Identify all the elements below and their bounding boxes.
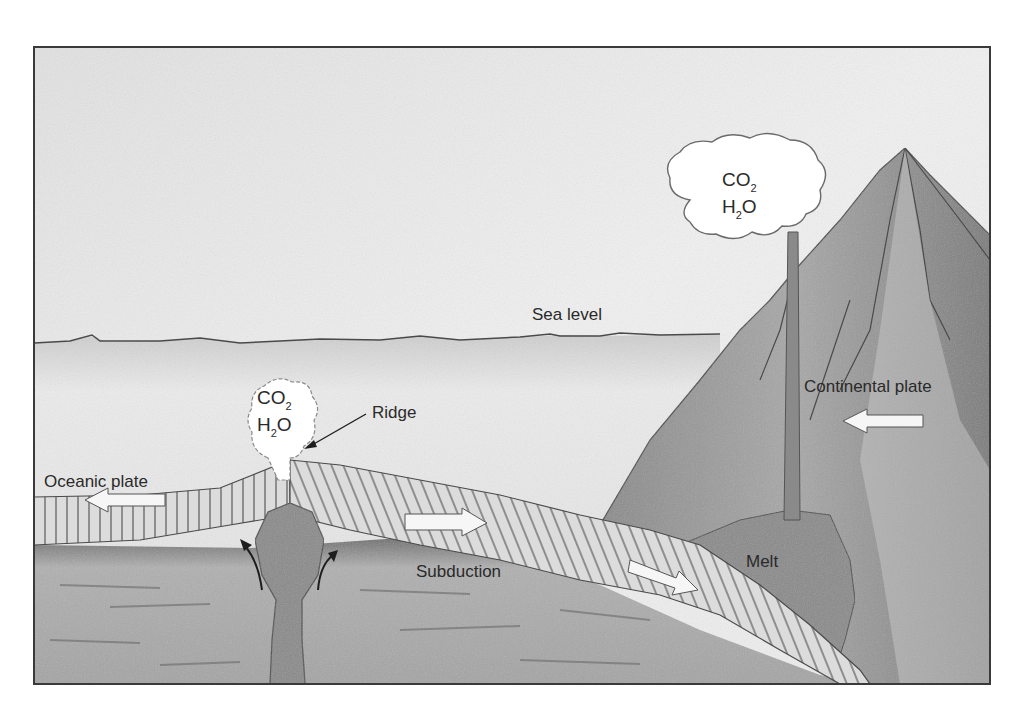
oceanic-plate-label: Oceanic plate — [44, 472, 148, 491]
melt-label: Melt — [746, 552, 778, 571]
continental-plate-label: Continental plate — [804, 377, 932, 396]
tectonics-diagram: CO2 H2O CO2 H2O Sea level Ridge Oceanic … — [0, 0, 1033, 703]
sea-level-label: Sea level — [532, 305, 602, 324]
subduction-label: Subduction — [416, 562, 501, 581]
diagram-scene: CO2 H2O CO2 H2O Sea level Ridge Oceanic … — [34, 47, 990, 684]
ridge-label: Ridge — [372, 403, 416, 422]
